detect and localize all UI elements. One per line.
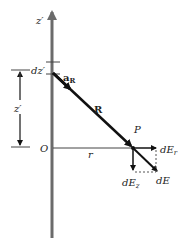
- origin-label: O: [40, 143, 48, 154]
- radius-label: r: [88, 149, 94, 160]
- z-height-label: z′: [13, 103, 22, 114]
- dE-z-label: dEz: [122, 177, 140, 190]
- field-vectors: [133, 148, 157, 172]
- line-charge-field-diagram: z′ dz′ z′ aR R O r P dEr dEz dE: [0, 0, 189, 245]
- dz-label: dz′: [31, 65, 46, 76]
- r-vector: [53, 73, 131, 146]
- dE-r-label: dEr: [160, 144, 178, 157]
- z-axis-label: z′: [35, 15, 44, 26]
- point-label: P: [133, 124, 141, 135]
- r-vector-label: R: [94, 104, 103, 115]
- dE-label: dE: [156, 175, 170, 186]
